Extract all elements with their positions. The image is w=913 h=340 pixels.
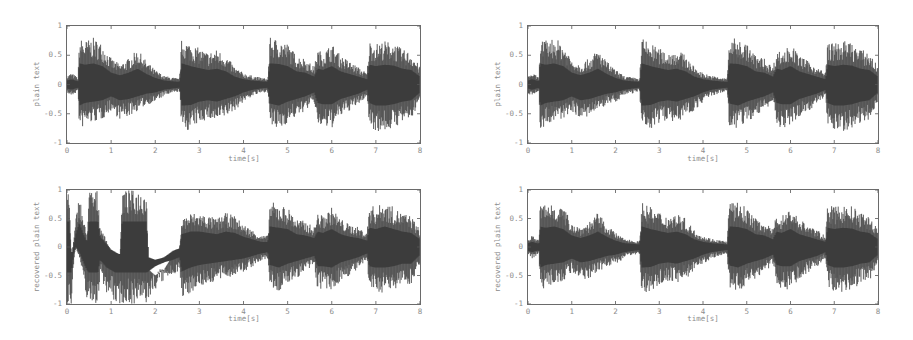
x-tick-label: 0 xyxy=(60,308,74,316)
x-tick-label: 7 xyxy=(827,147,841,155)
x-axis-label: time[s] xyxy=(673,315,733,323)
x-tick-label: 4 xyxy=(696,308,710,316)
y-tick-label: -0.5 xyxy=(32,272,62,280)
plot-area xyxy=(527,25,879,144)
x-axis-label: time[s] xyxy=(214,155,274,163)
x-tick-label: 5 xyxy=(281,147,295,155)
x-tick-label: 0 xyxy=(521,308,535,316)
x-tick-label: 3 xyxy=(192,308,206,316)
x-tick-label: 2 xyxy=(609,308,623,316)
x-tick-label: 6 xyxy=(784,147,798,155)
x-tick-label: 5 xyxy=(281,308,295,316)
x-tick-label: 0 xyxy=(521,147,535,155)
x-tick-label: 8 xyxy=(871,147,885,155)
x-tick-label: 0 xyxy=(60,147,74,155)
x-tick-label: 8 xyxy=(871,308,885,316)
x-tick-label: 4 xyxy=(696,147,710,155)
y-tick-label: 0.5 xyxy=(32,215,62,223)
x-tick-label: 6 xyxy=(325,308,339,316)
y-tick-label: 0.5 xyxy=(493,51,523,59)
x-tick-label: 1 xyxy=(565,308,579,316)
x-tick-label: 4 xyxy=(237,147,251,155)
x-tick-label: 7 xyxy=(827,308,841,316)
x-tick-label: 6 xyxy=(784,308,798,316)
x-axis-label: time[s] xyxy=(214,315,274,323)
x-tick-label: 1 xyxy=(565,147,579,155)
x-tick-label: 8 xyxy=(413,147,427,155)
x-tick-label: 5 xyxy=(740,147,754,155)
x-tick-label: 1 xyxy=(104,308,118,316)
y-tick-label: -0.5 xyxy=(32,110,62,118)
y-tick-label: -0.5 xyxy=(493,110,523,118)
y-tick-label: -0.5 xyxy=(493,272,523,280)
x-tick-label: 2 xyxy=(609,147,623,155)
y-tick-label: -1 xyxy=(32,139,62,147)
x-axis-label: time[s] xyxy=(673,155,733,163)
y-tick-label: 0 xyxy=(32,81,62,89)
y-tick-label: 1 xyxy=(32,186,62,194)
plot-area xyxy=(527,189,879,305)
plot-area xyxy=(66,25,421,144)
y-tick-label: 1 xyxy=(493,186,523,194)
y-tick-label: 0.5 xyxy=(493,215,523,223)
x-tick-label: 5 xyxy=(740,308,754,316)
y-tick-label: 0 xyxy=(493,243,523,251)
y-tick-label: 0 xyxy=(493,81,523,89)
waveform xyxy=(528,26,878,143)
y-tick-label: -1 xyxy=(493,139,523,147)
waveform xyxy=(67,190,420,304)
x-tick-label: 3 xyxy=(652,147,666,155)
x-tick-label: 1 xyxy=(104,147,118,155)
x-tick-label: 3 xyxy=(192,147,206,155)
y-tick-label: -1 xyxy=(32,300,62,308)
y-tick-label: 0.5 xyxy=(32,51,62,59)
x-tick-label: 7 xyxy=(369,147,383,155)
y-tick-label: 1 xyxy=(32,22,62,30)
x-tick-label: 8 xyxy=(413,308,427,316)
plot-area xyxy=(66,189,421,305)
x-tick-label: 6 xyxy=(325,147,339,155)
x-tick-label: 4 xyxy=(237,308,251,316)
y-tick-label: 0 xyxy=(32,243,62,251)
waveform xyxy=(528,190,878,304)
x-tick-label: 2 xyxy=(148,308,162,316)
waveform xyxy=(67,26,420,143)
x-tick-label: 3 xyxy=(652,308,666,316)
y-tick-label: -1 xyxy=(493,300,523,308)
y-tick-label: 1 xyxy=(493,22,523,30)
x-tick-label: 7 xyxy=(369,308,383,316)
x-tick-label: 2 xyxy=(148,147,162,155)
